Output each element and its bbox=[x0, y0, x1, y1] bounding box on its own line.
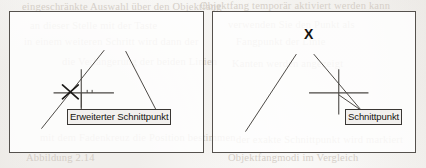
extended-intersection-panel: Erweiterter Schnittpunkt bbox=[9, 11, 204, 153]
callout-extended-intersection[interactable]: Erweiterter Schnittpunkt bbox=[67, 109, 171, 125]
line-ascending-right bbox=[246, 54, 296, 131]
callout-intersection[interactable]: Schnittpunkt bbox=[345, 109, 402, 125]
line-descending-right bbox=[314, 54, 362, 110]
marker-x-right: X bbox=[304, 27, 313, 41]
extended-intersection-drawing bbox=[10, 12, 203, 152]
intersection-panel: X Schnittpunkt bbox=[212, 11, 416, 153]
figure-screenshot: eingeschränkte Auswahl über den Objektfa… bbox=[0, 0, 426, 168]
intersection-drawing bbox=[213, 12, 415, 152]
figure-panels: Erweiterter Schnittpunkt X Schnittpunkt bbox=[0, 0, 426, 168]
line-descending-left bbox=[126, 51, 159, 114]
marker-x-left bbox=[62, 85, 78, 99]
